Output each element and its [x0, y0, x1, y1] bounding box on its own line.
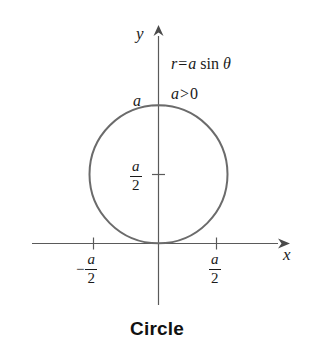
condition-value: 0	[190, 85, 198, 102]
fraction-numerator: a	[209, 252, 221, 268]
negative-sign: −	[76, 261, 84, 278]
x-axis-label: x	[283, 246, 291, 263]
equation-coefficient: a	[188, 55, 196, 72]
fraction-numerator: a	[130, 159, 142, 175]
y-axis-label: y	[136, 25, 144, 42]
y-tick-label-half-a: a 2	[130, 159, 142, 194]
plot-canvas	[0, 0, 314, 351]
x-tick-label-positive-half-a: a 2	[209, 252, 221, 287]
equation-angle-variable: θ	[223, 55, 231, 72]
figure-caption: Circle	[0, 318, 314, 340]
condition-variable: a	[171, 85, 179, 102]
fraction-numerator: a	[85, 252, 97, 268]
equation-condition: a>0	[171, 86, 198, 102]
x-tick-label-negative-half-a: − a 2	[76, 252, 97, 287]
fraction-denominator: 2	[209, 271, 221, 287]
condition-operator: >	[179, 85, 190, 102]
y-tick-label-a: a	[133, 93, 141, 109]
fraction-denominator: 2	[130, 178, 142, 194]
equation-function-name: sin	[200, 55, 219, 72]
polar-circle-figure: y x r=a sin θ a>0 a a 2 − a 2 a 2 Circle	[0, 0, 314, 351]
fraction-denominator: 2	[85, 271, 97, 287]
equation-polar: r=a sin θ	[171, 56, 231, 72]
equation-equals-sign: =	[177, 55, 188, 72]
fraction-negative-half-a: a 2	[85, 252, 97, 287]
y-axis-arrowhead	[154, 25, 164, 36]
